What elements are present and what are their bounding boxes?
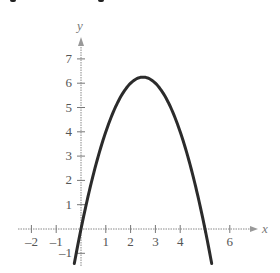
x-axis-label: x: [261, 221, 268, 236]
x-tick-label: –2: [24, 234, 38, 249]
x-tick-label: 6: [227, 234, 234, 249]
curve-layer: [74, 77, 211, 263]
x-tick-label: 4: [177, 234, 184, 249]
y-tick-label: 7: [66, 51, 73, 66]
axes: [18, 37, 258, 266]
y-tick-label: 1: [66, 197, 73, 212]
y-tick-label: 3: [66, 148, 73, 163]
y-tick-label: 2: [66, 172, 73, 187]
y-axis-arrow-icon: [78, 37, 84, 46]
x-tick-label: 1: [103, 234, 110, 249]
y-tick-label: 4: [66, 124, 73, 139]
x-tick-label: 2: [127, 234, 134, 249]
y-tick-label: 5: [66, 100, 73, 115]
parabola-curve: [74, 77, 211, 263]
x-axis-arrow-icon: [250, 226, 258, 232]
y-tick-label: 6: [66, 75, 73, 90]
y-axis-label: y: [75, 18, 83, 33]
parabola-chart: –2–112346–11234567 x y: [0, 0, 280, 273]
y-tick-label: –1: [58, 245, 72, 260]
x-tick-label: 3: [152, 234, 159, 249]
